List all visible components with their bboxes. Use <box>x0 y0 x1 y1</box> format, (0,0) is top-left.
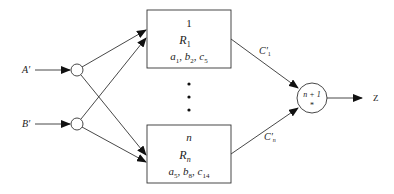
input-a-label: A′ <box>21 64 31 75</box>
input-b: B′ <box>22 118 83 130</box>
edge-a-to-rule1 <box>82 30 146 67</box>
fuzzy-rule-network-diagram: A′ B′ 1 R1 a1, b2, c5 n Rn a5, b8, c14 <box>0 0 394 194</box>
rule-box-n: n Rn a5, b8, c14 <box>147 125 231 183</box>
input-a-node <box>71 64 83 76</box>
aggregator-node: n + 1 * <box>297 83 327 113</box>
input-b-node <box>71 118 83 130</box>
rule-box-1-index: 1 <box>186 17 192 29</box>
edge-b-to-rule1 <box>81 38 146 119</box>
aggregator-top-label: n + 1 <box>303 90 320 99</box>
aggregator-bottom-label: * <box>310 101 314 110</box>
output-label: Z <box>373 93 379 103</box>
edge-label-cn: C′n <box>264 131 276 143</box>
edge-label-c1: C′1 <box>259 45 271 57</box>
ellipsis-dots <box>187 82 190 111</box>
edge-b-to-rulen <box>82 127 146 162</box>
rule-box-1: 1 R1 a1, b2, c5 <box>147 10 231 68</box>
input-b-label: B′ <box>22 118 31 129</box>
output-z: Z <box>327 93 379 103</box>
edge-a-to-rulen <box>81 75 146 155</box>
rule-box-n-index: n <box>186 131 192 143</box>
input-a: A′ <box>21 64 83 76</box>
input-connections <box>81 30 146 162</box>
